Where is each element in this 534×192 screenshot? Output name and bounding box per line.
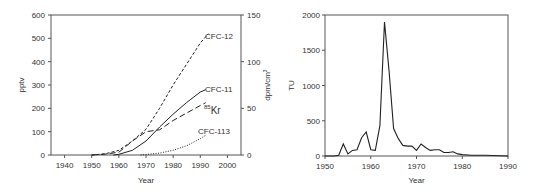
y-right-tick-label: 0 bbox=[247, 151, 252, 160]
series-line-cfc-113 bbox=[141, 135, 206, 155]
y-axis-label: TU bbox=[287, 80, 296, 91]
x-tick-label: 2000 bbox=[219, 161, 237, 170]
x-tick-label: 1970 bbox=[408, 162, 426, 171]
y-tick-label: 1500 bbox=[302, 46, 320, 55]
y-tick-label: 1000 bbox=[302, 82, 320, 91]
left-chart: 1940195019601970198019902000010020030040… bbox=[17, 11, 272, 185]
y-tick-label: 500 bbox=[32, 34, 46, 43]
y-tick-label: 400 bbox=[32, 58, 46, 67]
series-line-tritium bbox=[325, 22, 508, 156]
x-tick-label: 1950 bbox=[316, 162, 334, 171]
x-tick-label: 1990 bbox=[191, 161, 209, 170]
x-axis-label: Year bbox=[408, 176, 425, 185]
x-tick-label: 1940 bbox=[56, 161, 74, 170]
y-axis-label: pptv bbox=[17, 77, 26, 92]
y-tick-label: 200 bbox=[32, 104, 46, 113]
series-line-85kr bbox=[92, 103, 206, 155]
y-tick-label: 300 bbox=[32, 81, 46, 90]
y-tick-label: 100 bbox=[32, 128, 46, 137]
annotation-cfc113: CFC-113 bbox=[198, 127, 230, 136]
x-tick-label: 1990 bbox=[499, 162, 517, 171]
y-tick-label: 600 bbox=[32, 11, 46, 20]
y-tick-label: 0 bbox=[41, 151, 46, 160]
plot-frame bbox=[325, 15, 508, 156]
y-right-tick-label: 150 bbox=[247, 11, 261, 20]
x-tick-label: 1950 bbox=[83, 161, 101, 170]
y-tick-label: 2000 bbox=[302, 11, 320, 20]
y-tick-label: 500 bbox=[307, 117, 321, 126]
x-tick-label: 1970 bbox=[137, 161, 155, 170]
x-tick-label: 1960 bbox=[110, 161, 128, 170]
y-right-tick-label: 100 bbox=[247, 58, 261, 67]
y-right-axis-label: dpm/cm3 bbox=[262, 69, 272, 100]
y-right-tick-label: 50 bbox=[247, 104, 256, 113]
x-tick-label: 1980 bbox=[453, 162, 471, 171]
x-axis-label: Year bbox=[138, 176, 155, 185]
annotation-kr85: 85Kr bbox=[204, 104, 221, 116]
annotation-cfc11: CFC-11 bbox=[205, 85, 233, 94]
x-tick-label: 1960 bbox=[362, 162, 380, 171]
annotation-cfc12: CFC-12 bbox=[205, 32, 234, 41]
x-tick-label: 1980 bbox=[164, 161, 182, 170]
chart-canvas: 1940195019601970198019902000010020030040… bbox=[0, 0, 534, 192]
y-tick-label: 0 bbox=[316, 152, 321, 161]
right-chart: 195019601970198019900500100015002000Year… bbox=[287, 11, 517, 185]
